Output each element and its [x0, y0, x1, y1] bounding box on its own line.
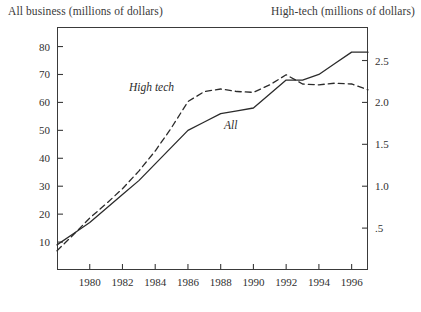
y-tick-label-left: 20 [14, 208, 50, 220]
chart-page: All business (millions of dollars) High-… [0, 0, 421, 312]
x-tick-label: 1980 [79, 276, 101, 288]
y-tick-label-left: 40 [14, 152, 50, 164]
x-tick-label: 1988 [210, 276, 232, 288]
right-axis-title: High-tech (millions of dollars) [271, 5, 415, 17]
series-label-high-tech: High tech [129, 81, 174, 93]
x-tick-label: 1994 [308, 276, 330, 288]
x-tick-label: 1982 [111, 276, 133, 288]
y-tick-label-right: 1.5 [375, 138, 389, 150]
x-tick-label: 1990 [242, 276, 264, 288]
x-tick-label: 1996 [341, 276, 363, 288]
y-tick-label-left: 60 [14, 96, 50, 108]
x-tick-label: 1986 [177, 276, 199, 288]
y-tick-label-left: 80 [14, 41, 50, 53]
y-tick-label-right: 2.0 [375, 96, 389, 108]
left-axis-title: All business (millions of dollars) [8, 5, 163, 17]
y-tick-label-right: 1.0 [375, 180, 389, 192]
plot-frame [57, 27, 368, 270]
y-tick-label-right: .5 [375, 222, 383, 234]
x-tick-label: 1992 [275, 276, 297, 288]
y-tick-label-left: 70 [14, 68, 50, 80]
y-tick-label-right: 2.5 [375, 55, 389, 67]
y-tick-label-left: 30 [14, 180, 50, 192]
y-tick-label-left: 10 [14, 236, 50, 248]
y-tick-label-left: 50 [14, 124, 50, 136]
x-tick-label: 1984 [144, 276, 166, 288]
series-label-all: All [224, 119, 237, 131]
